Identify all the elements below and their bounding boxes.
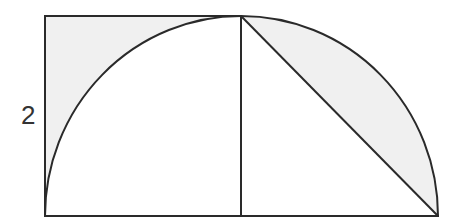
geometry-diagram	[0, 0, 461, 224]
side-length-label: 2	[21, 102, 35, 128]
shaded-corner-region	[45, 16, 241, 216]
